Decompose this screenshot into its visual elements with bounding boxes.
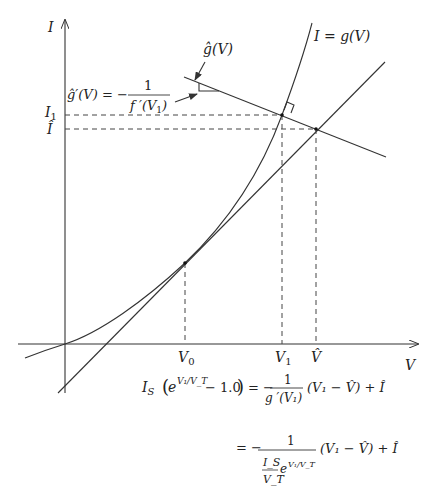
g-curve: [25, 23, 312, 358]
svg-text:e: e: [280, 462, 287, 476]
equation-line-2: = − 1 I_S V_T e V₁/V_T (V₁ − V̂) + Î: [236, 434, 398, 486]
svg-text:I_S: I_S: [262, 456, 281, 469]
x-tick-v0: V0: [178, 349, 195, 367]
g-curve-label: I = g(V): [313, 28, 370, 44]
svg-text:ĝ′(V) = −: ĝ′(V) = −: [67, 87, 128, 102]
svg-text:V₁/V_T: V₁/V_T: [288, 460, 315, 469]
svg-text:V₁/V_T: V₁/V_T: [177, 376, 208, 387]
x-tick-v1: V1: [275, 349, 292, 367]
svg-text:f ′(V1): f ′(V1): [129, 98, 167, 115]
y-axis-label: I: [47, 19, 54, 35]
svg-text:1: 1: [287, 434, 295, 448]
x-axis-label-v: V: [405, 357, 417, 373]
tangent-line-v0: [58, 62, 385, 393]
svg-text:g ′(V₁): g ′(V₁): [265, 391, 302, 405]
point-v0: [183, 261, 187, 265]
svg-text:(V₁ − V̂) + Î: (V₁ − V̂) + Î: [320, 441, 398, 456]
slope-pointer-arrow: [175, 94, 197, 102]
slope-annotation: ĝ′(V) = − 1 f ′(V1): [67, 78, 170, 115]
y-tick-ihat: Î: [46, 120, 54, 137]
point-v1: [280, 113, 284, 117]
x-tick-vhat: V̂: [311, 348, 323, 365]
ghat-label: ĝ(V): [203, 41, 233, 57]
equation-line-1: IS ( e V₁/V_T − 1.0 ) = − 1 g ′(V₁) (V₁ …: [141, 373, 385, 405]
ghat-pointer-arrow: [195, 62, 205, 80]
diagram-canvas: I V I1 Î V0 V1 V̂ I = g(V) ĝ(V) ĝ′(V) = …: [0, 0, 441, 503]
svg-text:(V₁ − V̂) + Î: (V₁ − V̂) + Î: [307, 380, 385, 395]
svg-text:e: e: [168, 379, 176, 395]
y-tick-i1: I1: [44, 104, 57, 122]
svg-text:IS: IS: [141, 379, 155, 397]
svg-text:− 1.0: − 1.0: [205, 380, 241, 395]
svg-text:1: 1: [144, 78, 152, 93]
right-angle-marker: [284, 102, 294, 113]
svg-text:1: 1: [284, 373, 292, 387]
point-vhat: [314, 127, 318, 131]
ghat-line: [184, 77, 386, 157]
svg-text:): ): [237, 376, 244, 397]
svg-text:= −: = −: [236, 440, 262, 455]
